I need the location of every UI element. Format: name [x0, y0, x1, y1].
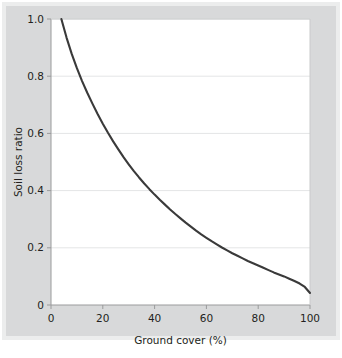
x-tick-label: 0 [48, 312, 55, 324]
x-tick-label: 80 [252, 312, 265, 324]
y-tick-label: 0.8 [27, 70, 44, 82]
y-tick-label: 1.0 [27, 13, 44, 25]
y-tick-label: 0.2 [27, 241, 44, 253]
line-chart: 00.20.40.60.81.0 020406080100 Ground cov… [0, 0, 342, 358]
y-axis-title: Soil loss ratio [12, 127, 24, 197]
plot-area [51, 19, 310, 305]
x-tick-label: 40 [148, 312, 161, 324]
y-tick-label: 0.4 [27, 184, 44, 196]
x-tick-label: 60 [200, 312, 213, 324]
x-axis-title: Ground cover (%) [134, 334, 227, 346]
y-tick-label: 0 [37, 299, 44, 311]
y-axis-ticks: 00.20.40.60.81.0 [27, 13, 51, 311]
y-tick-label: 0.6 [27, 127, 44, 139]
soil-loss-ratio-figure: 00.20.40.60.81.0 020406080100 Ground cov… [0, 0, 342, 358]
x-axis-ticks: 020406080100 [48, 305, 320, 324]
x-tick-label: 100 [300, 312, 320, 324]
x-tick-label: 20 [96, 312, 109, 324]
